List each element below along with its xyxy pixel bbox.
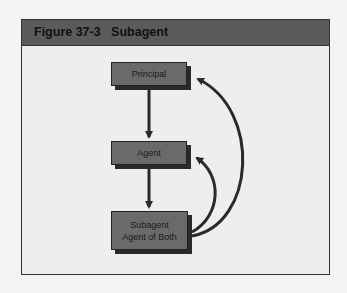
node-subagent: Subagent Agent of Both <box>111 211 188 250</box>
node-principal: Principal <box>111 62 187 86</box>
node-agent-label: Agent <box>137 147 161 159</box>
node-subagent-label-1: Subagent <box>130 219 169 231</box>
edge-subagent-agent <box>192 158 215 232</box>
node-agent: Agent <box>111 141 187 165</box>
node-subagent-label-2: Agent of Both <box>122 231 177 243</box>
edge-subagent-principal <box>192 79 243 236</box>
node-principal-label: Principal <box>132 68 167 80</box>
